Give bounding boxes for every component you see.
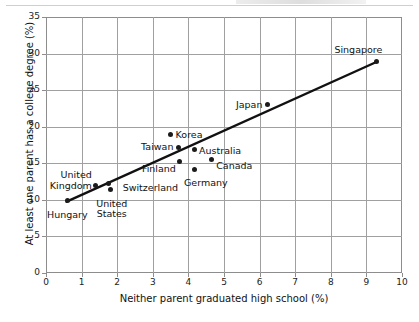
x-tick-label: 8 <box>319 277 343 287</box>
data-point[interactable] <box>106 181 111 186</box>
data-point-label: Switzerland <box>123 183 178 194</box>
data-point-label: Australia <box>199 146 241 157</box>
data-point-label: Taiwan <box>141 142 173 153</box>
data-point[interactable] <box>374 59 379 64</box>
data-point-label: Japan <box>236 100 263 111</box>
data-point[interactable] <box>177 159 182 164</box>
x-tick-label: 6 <box>248 277 272 287</box>
data-point-label: United Kingdom <box>50 170 92 191</box>
data-point-label: Germany <box>184 178 228 189</box>
data-point-label: Korea <box>176 130 203 141</box>
x-tick-label: 4 <box>176 277 200 287</box>
data-point-label: Singapore <box>334 44 382 55</box>
y-tick-label: 35 <box>22 11 40 21</box>
data-point-label: Canada <box>216 160 252 171</box>
x-tick-label: 5 <box>212 277 236 287</box>
x-tick-label: 3 <box>141 277 165 287</box>
y-tick-label: 5 <box>22 230 40 240</box>
x-tick-label: 10 <box>390 277 414 287</box>
y-tick-label: 10 <box>22 194 40 204</box>
x-axis-title: Neither parent graduated high school (%) <box>46 293 402 304</box>
page-top-rule <box>6 5 413 6</box>
y-tick-label: 20 <box>22 121 40 131</box>
x-tick-label: 7 <box>283 277 307 287</box>
page-top-text-smudge <box>236 0 366 4</box>
data-point[interactable] <box>176 145 181 150</box>
plot-area: HungaryUnited KingdomSwitzerlandUnited S… <box>46 17 402 273</box>
y-tick-label: 25 <box>22 84 40 94</box>
data-point[interactable] <box>192 167 197 172</box>
data-point-label: United States <box>96 199 127 220</box>
x-tick-label: 0 <box>34 277 58 287</box>
y-tick-label: 15 <box>22 157 40 167</box>
data-point-label: Finland <box>142 164 176 175</box>
y-tick-label: 30 <box>22 48 40 58</box>
data-point[interactable] <box>209 157 214 162</box>
chart-page: At least one parent has a college degree… <box>0 0 419 322</box>
y-tick-label: 0 <box>22 267 40 277</box>
y-axis-title: At least one parent has a college degree… <box>24 9 35 259</box>
x-tick-label: 1 <box>70 277 94 287</box>
x-tick-label: 2 <box>105 277 129 287</box>
data-point-label: Hungary <box>47 210 88 221</box>
x-tick-label: 9 <box>354 277 378 287</box>
data-point[interactable] <box>192 147 197 152</box>
